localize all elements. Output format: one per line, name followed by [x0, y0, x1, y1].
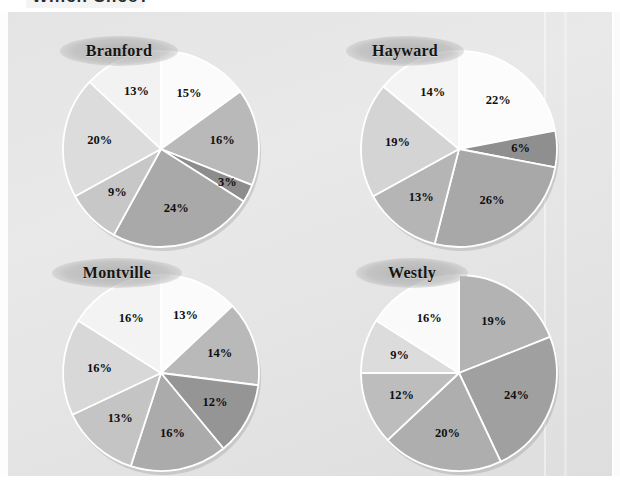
slice-percent-label: 20%	[435, 426, 460, 440]
chart-title-text: Montville	[83, 264, 151, 282]
slice-percent-label: 13%	[124, 84, 149, 98]
chart-title-text: Hayward	[372, 42, 438, 60]
slice-percent-label: 16%	[119, 311, 144, 325]
slice-percent-label: 9%	[390, 348, 409, 362]
chart-title-montville: Montville	[52, 258, 182, 288]
right-margin	[614, 0, 620, 488]
slice-percent-label: 16%	[160, 426, 185, 440]
slice-percent-label: 19%	[385, 135, 410, 149]
pie-chart-hayward[interactable]: 22%6%26%13%19%14%Hayward	[328, 20, 590, 266]
chart-title-hayward: Hayward	[346, 36, 464, 66]
slice-percent-label: 13%	[409, 190, 434, 204]
slice-percent-label: 6%	[511, 141, 530, 155]
slice-percent-label: 3%	[218, 175, 237, 189]
slice-percent-label: 15%	[177, 86, 202, 100]
chart-title-text: Westly	[388, 264, 436, 282]
slice-percent-label: 13%	[108, 411, 133, 425]
slice-percent-label: 22%	[486, 93, 511, 107]
slice-percent-label: 12%	[203, 395, 228, 409]
pie-chart-branford[interactable]: 15%16%3%24%9%20%13%Branford	[30, 20, 292, 266]
chart-title-westly: Westly	[356, 258, 468, 288]
page-title-fragment: Which Slice?	[32, 0, 150, 7]
slice-percent-label: 26%	[480, 193, 505, 207]
slice-percent-label: 12%	[389, 388, 414, 402]
slice-percent-label: 16%	[210, 133, 235, 147]
poster-panel: 15%16%3%24%9%20%13%Branford 22%6%26%13%1…	[8, 12, 612, 476]
slice-percent-label: 14%	[420, 85, 445, 99]
slice-percent-label: 9%	[108, 185, 127, 199]
slice-percent-label: 24%	[504, 388, 529, 402]
bottom-margin	[0, 476, 620, 488]
slice-percent-label: 13%	[173, 308, 198, 322]
slice-percent-label: 24%	[164, 201, 189, 215]
slice-percent-label: 20%	[87, 133, 112, 147]
pie-chart-westly[interactable]: 19%24%20%12%9%16%Westly	[328, 244, 590, 488]
top-title-strip: Which Slice?	[0, 0, 620, 12]
slice-percent-label: 16%	[87, 361, 112, 375]
slice-percent-label: 16%	[417, 311, 442, 325]
chart-title-text: Branford	[86, 42, 152, 60]
pie-chart-montville[interactable]: 13%14%12%16%13%16%16%Montville	[30, 244, 292, 488]
slice-percent-label: 14%	[207, 346, 232, 360]
slice-percent-label: 19%	[481, 314, 506, 328]
chart-title-branford: Branford	[60, 36, 178, 66]
